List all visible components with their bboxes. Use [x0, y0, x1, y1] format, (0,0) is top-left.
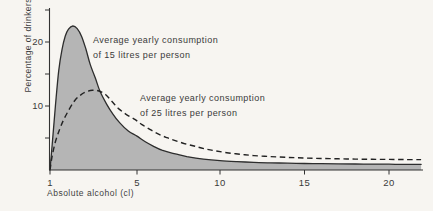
annotation-15-line1: Average yearly consumption [93, 33, 218, 48]
y-axis-title: Percentage of drinkers [23, 7, 34, 93]
annotation-25-litres: Average yearly consumption of 25 litres … [140, 91, 265, 121]
x-tick-label-1: 1 [47, 177, 53, 188]
annotation-15-line2: of 15 litres per person [93, 48, 218, 63]
x-tick-label-10: 10 [214, 177, 225, 188]
x-tick-label-15: 15 [299, 177, 310, 188]
y-tick-label-10: 10 [32, 100, 43, 111]
figure-ledermann-distribution: 102015101520 Percentage of drinkers Abso… [0, 0, 433, 211]
x-tick-label-5: 5 [134, 177, 140, 188]
y-tick-label-20: 20 [32, 36, 43, 47]
x-axis-title: Absolute alcohol (cl) [47, 188, 134, 198]
x-tick-label-20: 20 [383, 177, 394, 188]
annotation-25-line1: Average yearly consumption [140, 91, 265, 106]
annotation-15-litres: Average yearly consumption of 15 litres … [93, 33, 218, 63]
annotation-25-line2: of 25 litres per person [140, 106, 265, 121]
